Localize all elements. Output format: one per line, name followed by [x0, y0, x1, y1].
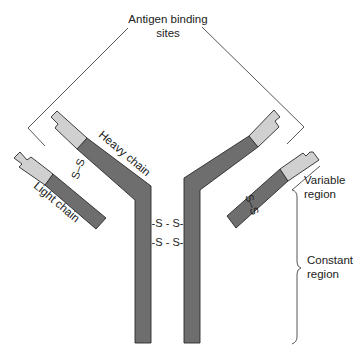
left-heavy-variable: [51, 111, 87, 149]
variable-region-label-2: region: [304, 188, 336, 200]
variable-region-label: Variable: [304, 174, 345, 186]
right-heavy-constant: [184, 136, 258, 343]
left-arm-disulfide: S–S: [69, 157, 87, 181]
left-light-chain: [14, 152, 106, 229]
antigen-binding-label-2: sites: [156, 27, 180, 39]
right-antigen-bracket: [202, 27, 304, 144]
hinge-disulfide-2: -S - S-: [152, 236, 184, 248]
hinge-disulfide-1: -S - S-: [152, 217, 184, 229]
constant-region-label-2: region: [307, 268, 339, 280]
constant-region-brace: [292, 190, 301, 344]
left-antigen-bracket: [28, 28, 128, 146]
left-light-variable: [14, 152, 53, 185]
left-heavy-chain: [51, 111, 151, 343]
constant-region-label: Constant: [307, 254, 354, 266]
antibody-diagram: Antigen binding sites Heavy chain Light …: [0, 0, 363, 353]
right-heavy-chain: [184, 110, 280, 343]
antigen-binding-label: Antigen binding: [128, 13, 207, 25]
right-heavy-variable: [249, 110, 280, 147]
